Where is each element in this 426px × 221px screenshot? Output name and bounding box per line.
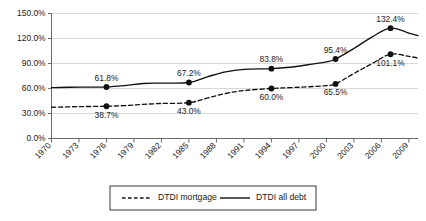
legend-label[interactable]: DTDI all debt <box>256 192 307 202</box>
data-point-label: 101.1% <box>376 58 405 68</box>
data-point-marker <box>269 66 275 72</box>
data-point-marker <box>333 81 339 87</box>
chart-legend: DTDI mortgageDTDI all debt <box>110 186 316 210</box>
y-tick-label: 150.0% <box>17 8 46 18</box>
data-point-label: 65.5% <box>324 87 348 97</box>
chart-container: 0.0%30.0%60.0%90.0%120.0%150.0% 19701973… <box>0 0 426 221</box>
dtdi-line-chart: 0.0%30.0%60.0%90.0%120.0%150.0% 19701973… <box>0 0 426 221</box>
y-tick-label: 120.0% <box>17 33 46 43</box>
data-point-marker <box>388 51 394 57</box>
data-point-label: 38.7% <box>95 110 119 120</box>
y-tick-label: 90.0% <box>22 58 46 68</box>
data-point-label: 83.8% <box>260 54 284 64</box>
y-tick-label: 60.0% <box>22 83 46 93</box>
data-point-marker <box>186 80 192 86</box>
data-point-marker <box>186 100 192 106</box>
data-point-marker <box>333 56 339 62</box>
data-point-marker <box>388 25 394 31</box>
y-tick-label: 30.0% <box>22 108 46 118</box>
data-point-label: 61.8% <box>95 73 119 83</box>
legend-label[interactable]: DTDI mortgage <box>158 192 217 202</box>
data-point-marker <box>104 103 110 109</box>
data-point-label: 95.4% <box>324 45 348 55</box>
data-point-label: 67.2% <box>177 68 201 78</box>
data-point-label: 132.4% <box>376 14 405 24</box>
data-point-marker <box>269 86 275 92</box>
data-point-label: 60.0% <box>260 92 284 102</box>
data-point-marker <box>104 84 110 90</box>
data-point-label: 43.0% <box>177 106 201 116</box>
